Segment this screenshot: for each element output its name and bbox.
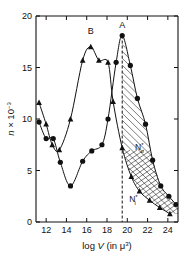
data-point-circle	[120, 33, 125, 38]
data-point-circle	[128, 63, 133, 68]
data-point-circle	[143, 122, 148, 127]
x-tick-label: 20	[122, 225, 132, 235]
data-point-circle	[150, 158, 155, 163]
data-point-circle	[44, 136, 49, 141]
data-point-circle	[158, 183, 163, 188]
data-point-circle	[166, 194, 171, 199]
x-tick-label: 12	[41, 225, 51, 235]
x-axis-title: log V (in μ3)	[82, 240, 132, 251]
x-tick-label: 14	[61, 225, 71, 235]
y-tick-label: 10	[22, 114, 32, 124]
data-point-circle	[99, 142, 104, 147]
annotation-peak-A: A	[119, 20, 125, 30]
y-tick-label: 20	[22, 11, 32, 21]
data-point-circle	[58, 160, 63, 165]
x-tick-label: 16	[82, 225, 92, 235]
data-point-circle	[89, 148, 94, 153]
x-tick-label: 18	[102, 225, 112, 235]
data-point-circle	[105, 116, 110, 121]
y-tick-label: 5	[27, 166, 32, 176]
data-point-circle	[173, 202, 178, 207]
data-point-circle	[114, 60, 119, 65]
annotation-peak-B: B	[88, 26, 94, 36]
x-tick-label: 24	[163, 225, 173, 235]
data-point-circle	[68, 183, 73, 188]
data-point-circle	[80, 159, 85, 164]
y-tick-label: 0	[27, 217, 32, 227]
data-point-circle	[51, 136, 56, 141]
figure-container: 12141618202224 05101520 ABN*oN*i log V (…	[0, 0, 190, 255]
chart-canvas: 12141618202224 05101520 ABN*oN*i log V (…	[0, 0, 190, 255]
y-tick-label: 15	[22, 63, 32, 73]
x-tick-label: 22	[143, 225, 153, 235]
data-point-circle	[36, 119, 41, 124]
data-point-circle	[135, 96, 140, 101]
